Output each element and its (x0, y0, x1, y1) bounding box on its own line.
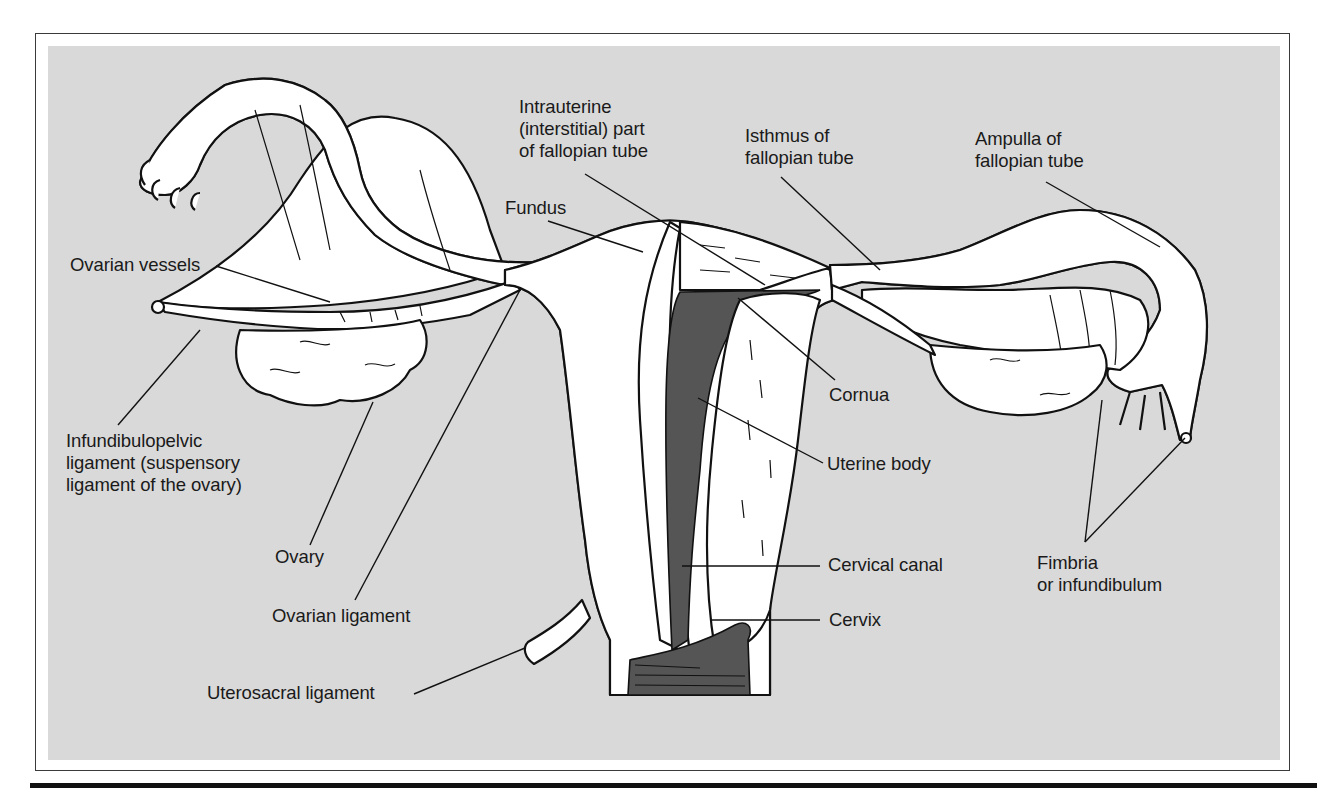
label-uterine-body: Uterine body (827, 453, 931, 475)
label-infundibulopelvic-ligament: Infundibulopelvic ligament (suspensory l… (66, 430, 242, 496)
leader-line-ovary (310, 402, 373, 545)
leader-line-infundibulopelvic-ligament (118, 330, 200, 425)
uterus-anatomy-illustration (0, 0, 1325, 802)
uterus (505, 221, 835, 695)
label-cervix: Cervix (829, 609, 881, 631)
label-ovarian-vessels: Ovarian vessels (70, 254, 200, 276)
label-cervical-canal: Cervical canal (828, 554, 943, 576)
leader-line-fimbria (1085, 438, 1185, 542)
label-isthmus: Isthmus of fallopian tube (745, 125, 854, 169)
right-fallopian-tube (830, 210, 1207, 443)
label-cornua: Cornua (829, 384, 889, 406)
label-uterosacral-ligament: Uterosacral ligament (207, 682, 375, 704)
label-intrauterine-part: Intrauterine (interstitial) part of fall… (519, 96, 648, 162)
label-fundus: Fundus (505, 197, 566, 219)
label-ovarian-ligament: Ovarian ligament (272, 605, 410, 627)
label-fimbria: Fimbria or infundibulum (1037, 552, 1162, 596)
leader-line-uterosacral-ligament (414, 648, 525, 694)
label-ampulla: Ampulla of fallopian tube (975, 128, 1084, 172)
bottom-rule-divider (30, 783, 1317, 788)
label-ovary: Ovary (275, 546, 324, 568)
leader-line-fimbria (1085, 400, 1102, 542)
